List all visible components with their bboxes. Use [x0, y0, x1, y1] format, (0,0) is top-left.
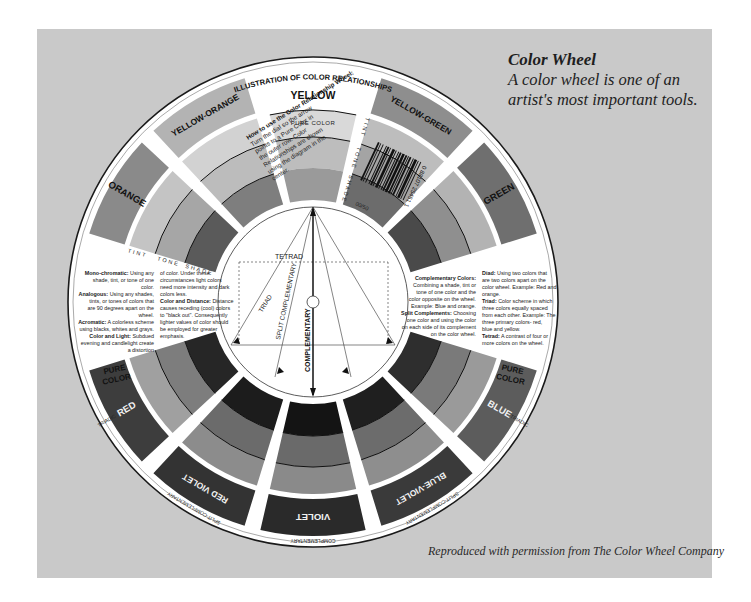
svg-text:three primary colors- red,: three primary colors- red,	[482, 319, 543, 325]
tone-ring	[276, 433, 350, 467]
svg-text:color wheel. Example: Red and: color wheel. Example: Red and	[482, 284, 557, 290]
svg-text:orange.: orange.	[482, 291, 500, 297]
svg-text:three colors equally spaced: three colors equally spaced	[482, 305, 548, 311]
svg-text:color.: color.	[141, 284, 154, 290]
svg-text:lighter values of color should: lighter values of color should	[160, 319, 228, 325]
svg-text:colors less.: colors less.	[160, 291, 187, 297]
svg-text:Color and Light: Subdued: Color and Light: Subdued	[89, 333, 154, 339]
yellow-shade	[283, 168, 343, 203]
svg-text:Combining a shade, tint or: Combining a shade, tint or	[413, 282, 476, 288]
segment-label: VIOLET	[296, 512, 331, 523]
svg-text:need more intensity and dark: need more intensity and dark	[160, 284, 230, 290]
complementary-label: COMPLEMENTARY	[304, 308, 311, 372]
svg-text:be employed for greater: be employed for greater	[160, 326, 217, 332]
svg-text:tone of one color and the: tone of one color and the	[416, 289, 476, 295]
svg-text:are 90 degrees apart on the: are 90 degrees apart on the	[87, 305, 154, 311]
svg-text:Mono-chromatic: Using any: Mono-chromatic: Using any	[85, 270, 155, 276]
svg-text:Triad: Color scheme in which: Triad: Color scheme in which	[482, 298, 552, 304]
svg-text:causes receding (cool) colors: causes receding (cool) colors	[160, 305, 230, 311]
svg-text:Analogous: Using any shades,: Analogous: Using any shades,	[78, 291, 154, 297]
svg-text:blue and yellow.: blue and yellow.	[482, 326, 520, 332]
svg-text:of color. Under these: of color. Under these	[160, 270, 210, 276]
svg-text:evening and candlelight create: evening and candlelight create	[81, 340, 154, 346]
tetrad-label: TETRAD	[275, 253, 303, 260]
svg-text:are two colors apart on the: are two colors apart on the	[482, 277, 546, 283]
svg-text:Tetrad: A contrast of four or: Tetrad: A contrast of four or	[482, 333, 548, 339]
svg-text:color opposite on the wheel.: color opposite on the wheel.	[409, 296, 476, 302]
svg-text:Color and Distance: Distance: Color and Distance: Distance	[160, 298, 233, 304]
svg-text:more colors on the wheel.: more colors on the wheel.	[482, 340, 544, 346]
svg-text:a distortion: a distortion	[128, 347, 154, 353]
svg-text:on the color wheel.: on the color wheel.	[431, 331, 476, 337]
shade-ring	[283, 401, 343, 436]
dial-pivot	[307, 296, 319, 308]
svg-text:circumstances light colors: circumstances light colors	[160, 277, 222, 283]
svg-text:emphasis.: emphasis.	[160, 333, 185, 339]
svg-text:one color and using the color: one color and using the color	[407, 317, 476, 323]
svg-text:from each other. Example: The: from each other. Example: The	[482, 312, 556, 318]
svg-text:shade, tint, or tone of one: shade, tint, or tone of one	[93, 277, 154, 283]
svg-text:to "black out". Consequently: to "black out". Consequently	[160, 312, 228, 318]
svg-text:Example: Blue and orange.: Example: Blue and orange.	[411, 303, 476, 309]
svg-text:wheel.: wheel.	[137, 312, 154, 318]
svg-text:using blacks, whites and grays: using blacks, whites and grays.	[79, 326, 154, 332]
svg-text:Diad: Using two colors that: Diad: Using two colors that	[482, 270, 548, 276]
svg-text:on each side of its complement: on each side of its complement	[402, 324, 477, 330]
svg-text:Split Complements: Choosing: Split Complements: Choosing	[401, 310, 476, 316]
svg-text:Acromatic: A colorless scheme: Acromatic: A colorless scheme	[78, 319, 154, 325]
relationship-sublabel: COMPLEMENTARY	[290, 538, 336, 544]
svg-text:tints, or tones of colors that: tints, or tones of colors that	[89, 298, 154, 304]
color-wheel[interactable]: YELLOW-GREENGREENBLUETRIADICBLUE-VIOLETS…	[0, 0, 751, 602]
svg-text:Complementary Colors:: Complementary Colors:	[415, 275, 476, 281]
